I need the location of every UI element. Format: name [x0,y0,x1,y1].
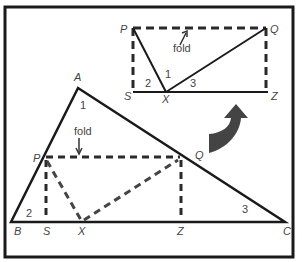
fold-label-top: fold [173,42,191,54]
vertex-x-top: X [161,93,170,105]
vertex-z-top: Z [270,90,279,102]
vertex-s-top: S [124,90,132,102]
frame-border [5,7,293,257]
vertex-c: C [283,225,291,237]
vertex-q-top: Q [270,23,279,35]
fold-diagram: fold P Q S X Z 1 2 3 fold A B C P Q S X … [0,0,302,262]
fold-label-main: fold [74,125,92,137]
vertex-s: S [43,225,51,237]
vertex-p-top: P [120,23,128,35]
vertex-z: Z [176,225,185,237]
angle-2-top: 2 [145,77,151,89]
segment-xq [166,28,266,92]
angle-2: 2 [26,207,32,219]
angle-3: 3 [242,203,248,215]
vertex-q: Q [195,149,204,161]
vertex-p: P [33,152,41,164]
dashed-px [47,161,81,220]
angle-1-top: 1 [165,68,171,80]
vertex-x: X [77,225,86,237]
angle-1: 1 [80,99,86,111]
curved-up-arrow-icon [209,104,248,153]
main-triangle-diagram: fold A B C P Q S X Z 1 2 3 [11,71,291,237]
vertex-b: B [14,225,21,237]
dashed-xq [84,160,178,220]
angle-3-top: 3 [190,77,196,89]
vertex-a: A [73,71,81,83]
triangle-abc [11,88,285,222]
top-folded-diagram: fold P Q S X Z 1 2 3 [120,23,279,105]
